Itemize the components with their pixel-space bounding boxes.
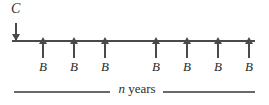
outflow-label-b: B bbox=[242, 60, 256, 73]
arrow-up-icon bbox=[155, 43, 157, 58]
arrow-down-icon bbox=[15, 23, 17, 40]
arrow-up-icon bbox=[104, 43, 106, 58]
outflow-label-b: B bbox=[149, 60, 163, 73]
inflow-label-c: C bbox=[11, 2, 20, 16]
cash-flow-timeline-diagram: C B B B B B B B n years bbox=[0, 0, 269, 105]
span-label: n years bbox=[113, 82, 161, 95]
span-rule-right bbox=[163, 91, 255, 93]
arrow-up-icon bbox=[248, 43, 250, 58]
outflow-label-b: B bbox=[67, 60, 81, 73]
outflow-label-b: B bbox=[180, 60, 194, 73]
arrow-up-icon bbox=[42, 43, 44, 58]
span-rule-left bbox=[14, 91, 110, 93]
outflow-label-b: B bbox=[211, 60, 225, 73]
arrow-up-icon bbox=[73, 43, 75, 58]
outflow-label-b: B bbox=[98, 60, 112, 73]
arrow-up-icon bbox=[186, 43, 188, 58]
outflow-label-b: B bbox=[36, 60, 50, 73]
span-unit: years bbox=[128, 81, 155, 96]
span-variable: n bbox=[118, 81, 125, 96]
arrow-up-icon bbox=[217, 43, 219, 58]
